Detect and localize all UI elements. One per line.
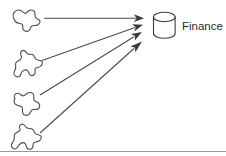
irregular-blob-icon [14,50,43,77]
source-blob-3[interactable] [14,92,40,115]
connector-source-2-to-finance[interactable] [42,24,143,60]
arrow-head-icon [131,32,142,41]
source-blob-2[interactable] [14,50,43,77]
connector-source-3-to-finance[interactable] [40,32,142,95]
flow-diagram: Finance [0,0,226,156]
connector-line [42,28,135,61]
database-cylinder-top-icon [154,12,176,21]
connector-line [40,49,134,134]
finance-label: Finance [182,20,223,32]
finance-database-node[interactable]: Finance [154,12,223,38]
irregular-blob-icon [13,10,40,31]
irregular-blob-icon [11,124,41,149]
source-blob-4[interactable] [11,124,41,149]
source-blob-1[interactable] [13,10,40,31]
connector-line [40,37,134,95]
irregular-blob-icon [14,92,40,115]
connector-source-1-to-finance[interactable] [44,14,144,22]
diagram-canvas: Finance [0,0,226,156]
